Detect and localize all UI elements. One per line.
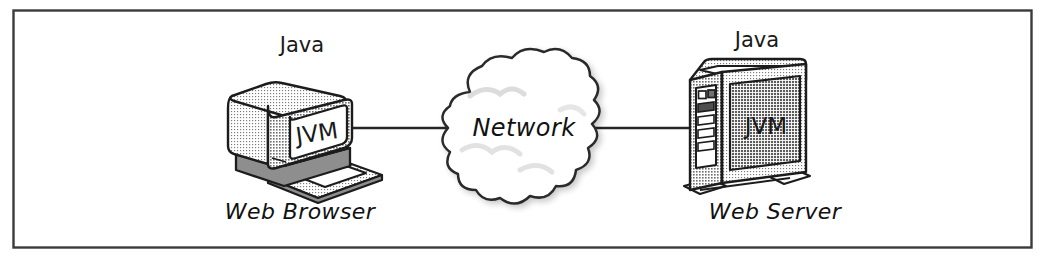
server-top-label: Java <box>733 28 779 52</box>
diagram-canvas: JVM Java Web Browser Network <box>0 0 1041 259</box>
client-top-label: Java <box>278 33 324 57</box>
server-drive-bay-2 <box>698 115 714 125</box>
server-indicator-2 <box>708 90 715 98</box>
server-drive-bay-1 <box>698 102 714 112</box>
server-panel-label: JVM <box>743 113 787 139</box>
server-front-panel <box>696 85 716 168</box>
network-label: Network <box>472 114 576 142</box>
server-bottom-label: Web Server <box>709 199 843 224</box>
server-indicator-1 <box>699 91 707 99</box>
java-jvm-network-diagram: JVM Java Web Browser Network <box>0 0 1041 259</box>
server-drive-bay-4 <box>698 141 714 151</box>
client-bottom-label: Web Browser <box>225 199 377 224</box>
server-drive-bay-3 <box>698 128 714 138</box>
